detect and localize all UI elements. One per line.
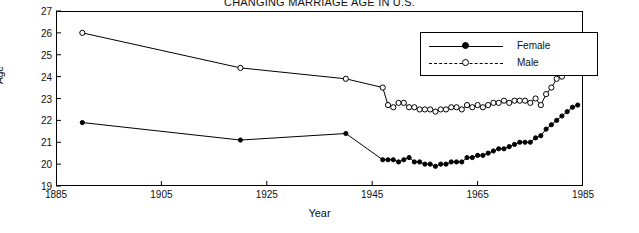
data-point xyxy=(565,110,569,114)
legend-box: Female Male xyxy=(420,32,598,76)
data-point xyxy=(554,76,559,81)
data-point xyxy=(460,160,464,164)
data-point xyxy=(522,98,527,103)
data-point xyxy=(544,92,549,97)
data-point xyxy=(443,107,448,112)
x-tick-label: 1905 xyxy=(150,189,172,200)
data-point xyxy=(343,76,348,81)
data-point xyxy=(476,153,480,157)
legend-item-male: Male xyxy=(421,55,599,71)
y-tick-labels: 192021222324252627 xyxy=(22,11,52,186)
data-point xyxy=(518,140,522,144)
data-point xyxy=(486,102,491,107)
data-point xyxy=(386,158,390,162)
data-point xyxy=(538,102,543,107)
chart-root: CHANGING MARRIAGE AGE IN U.S. Age Year 1… xyxy=(0,0,639,233)
data-point xyxy=(481,153,485,157)
x-tick-label: 1885 xyxy=(45,189,67,200)
x-axis-title: Year xyxy=(0,207,639,219)
data-point xyxy=(480,105,485,110)
data-point xyxy=(523,140,527,144)
data-point xyxy=(344,131,348,135)
data-point xyxy=(464,102,469,107)
legend-label-male: Male xyxy=(517,57,539,68)
data-point xyxy=(402,158,406,162)
data-point xyxy=(444,162,448,166)
data-point xyxy=(560,114,564,118)
data-point xyxy=(502,147,506,151)
data-point xyxy=(512,98,517,103)
data-point xyxy=(486,151,490,155)
data-point xyxy=(512,142,516,146)
data-point xyxy=(470,105,475,110)
data-point xyxy=(528,140,532,144)
data-point xyxy=(407,155,411,159)
chart-title: CHANGING MARRIAGE AGE IN U.S. xyxy=(0,0,639,8)
x-tick-label: 1945 xyxy=(361,189,383,200)
y-tick-label: 27 xyxy=(41,6,52,17)
data-point xyxy=(507,100,512,105)
data-point xyxy=(433,164,437,168)
x-tick-label: 1985 xyxy=(572,189,594,200)
data-point xyxy=(539,134,543,138)
data-point xyxy=(412,160,416,164)
data-point xyxy=(497,147,501,151)
data-point xyxy=(465,155,469,159)
data-point xyxy=(496,100,501,105)
y-tick-label: 20 xyxy=(41,159,52,170)
data-point xyxy=(570,105,574,109)
legend-marker-male xyxy=(462,59,469,66)
data-point xyxy=(507,145,511,149)
series-line xyxy=(82,105,577,166)
data-point xyxy=(491,100,496,105)
data-point xyxy=(555,118,559,122)
x-tick-label: 1965 xyxy=(466,189,488,200)
data-point xyxy=(428,162,432,166)
data-point xyxy=(459,107,464,112)
data-point xyxy=(576,103,580,107)
data-point xyxy=(380,85,385,90)
data-point xyxy=(238,138,242,142)
data-point xyxy=(528,100,533,105)
legend-item-female: Female xyxy=(421,38,599,54)
data-point xyxy=(501,98,506,103)
y-tick-label: 22 xyxy=(41,115,52,126)
data-point xyxy=(470,155,474,159)
legend-marker-female xyxy=(462,42,469,49)
data-point xyxy=(396,160,400,164)
data-point xyxy=(396,100,401,105)
legend-label-female: Female xyxy=(517,40,550,51)
data-point xyxy=(385,102,390,107)
data-point xyxy=(439,162,443,166)
data-point xyxy=(80,120,84,124)
data-point xyxy=(238,65,243,70)
data-point xyxy=(454,160,458,164)
data-point xyxy=(391,158,395,162)
data-point xyxy=(475,102,480,107)
data-point xyxy=(422,107,427,112)
x-tick-label: 1925 xyxy=(256,189,278,200)
data-point xyxy=(406,105,411,110)
data-point xyxy=(412,105,417,110)
data-point xyxy=(438,107,443,112)
data-point xyxy=(80,30,85,35)
y-tick-label: 24 xyxy=(41,71,52,82)
series-female xyxy=(80,103,580,168)
data-point xyxy=(449,105,454,110)
data-point xyxy=(401,100,406,105)
data-point xyxy=(381,158,385,162)
data-point xyxy=(544,127,548,131)
y-tick-label: 23 xyxy=(41,93,52,104)
plot-area: Female Male xyxy=(56,11,583,186)
data-point xyxy=(417,107,422,112)
data-point xyxy=(549,85,554,90)
data-point xyxy=(428,107,433,112)
y-tick-label: 26 xyxy=(41,27,52,38)
data-point xyxy=(454,105,459,110)
data-point xyxy=(549,123,553,127)
data-point xyxy=(418,160,422,164)
data-point xyxy=(533,136,537,140)
y-tick-label: 21 xyxy=(41,137,52,148)
x-tick-labels: 188519051925194519651985 xyxy=(56,189,583,203)
data-point xyxy=(491,149,495,153)
